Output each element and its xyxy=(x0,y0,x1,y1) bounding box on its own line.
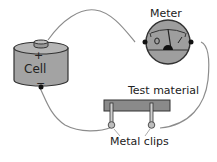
meter-label: Meter xyxy=(150,8,182,19)
test-material-label: Test material xyxy=(128,85,199,96)
metal-clips-label: Metal clips xyxy=(110,136,169,147)
circuit-diagram: Meter Test material Metal clips + Cell − xyxy=(0,0,217,162)
cell-positive-sign: + xyxy=(34,50,43,61)
meter-right-terminal xyxy=(189,40,194,45)
cell-negative-sign: − xyxy=(36,78,45,89)
meter-gauge xyxy=(143,20,194,64)
wire-clip-to-cell xyxy=(40,88,112,131)
test-material-bar xyxy=(104,100,170,111)
wire-cell-to-meter xyxy=(48,10,135,42)
circuit-drawing xyxy=(0,0,217,162)
cell-label: Cell xyxy=(24,63,46,75)
meter-left-terminal xyxy=(143,40,148,45)
